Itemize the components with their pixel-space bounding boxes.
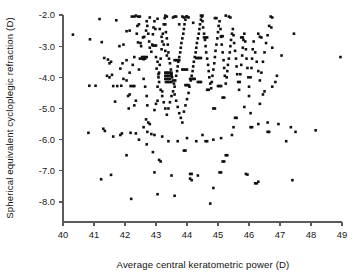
data-point bbox=[259, 79, 262, 82]
data-point bbox=[222, 59, 225, 62]
data-point bbox=[235, 57, 238, 60]
data-point bbox=[157, 76, 160, 79]
data-point bbox=[232, 34, 235, 37]
data-point bbox=[145, 143, 148, 146]
data-point bbox=[291, 179, 294, 182]
data-point bbox=[176, 140, 179, 143]
data-point bbox=[135, 99, 138, 102]
data-point bbox=[131, 15, 134, 18]
data-point bbox=[201, 14, 204, 17]
data-point bbox=[87, 132, 90, 135]
data-point bbox=[271, 16, 274, 19]
data-point bbox=[240, 64, 243, 67]
data-point bbox=[138, 68, 141, 71]
data-point bbox=[294, 131, 297, 134]
data-point bbox=[168, 57, 171, 60]
data-point bbox=[257, 70, 260, 73]
data-point bbox=[217, 31, 220, 34]
data-point bbox=[155, 44, 158, 47]
data-point bbox=[107, 58, 110, 61]
data-point bbox=[169, 78, 172, 81]
data-point bbox=[182, 32, 185, 35]
data-point bbox=[157, 73, 160, 76]
scatter-plot-figure: -2.0-3.0-4.0-5.0-6.0-7.0-8.0 40414243444… bbox=[0, 0, 355, 276]
data-point bbox=[112, 85, 115, 88]
data-point bbox=[235, 65, 238, 68]
data-point bbox=[125, 154, 128, 157]
data-point bbox=[285, 140, 288, 143]
data-point bbox=[238, 81, 241, 84]
data-point bbox=[186, 68, 189, 71]
data-point bbox=[293, 32, 296, 35]
data-point bbox=[243, 106, 246, 109]
data-point bbox=[201, 20, 204, 23]
data-point bbox=[94, 84, 97, 87]
data-point bbox=[242, 46, 245, 49]
data-point bbox=[127, 107, 130, 110]
data-point bbox=[158, 28, 161, 31]
data-point bbox=[211, 74, 214, 77]
data-point bbox=[118, 45, 121, 48]
data-point bbox=[184, 149, 187, 152]
y-tick-label: -4.0 bbox=[39, 72, 55, 83]
data-point bbox=[146, 131, 149, 134]
data-point bbox=[139, 42, 142, 45]
data-point bbox=[226, 70, 229, 73]
data-point bbox=[129, 132, 132, 135]
data-point bbox=[165, 31, 168, 34]
data-point bbox=[128, 71, 131, 74]
data-point bbox=[170, 95, 173, 98]
data-point bbox=[192, 21, 195, 24]
data-point bbox=[135, 32, 138, 35]
data-point bbox=[164, 50, 167, 53]
data-point bbox=[116, 85, 119, 88]
data-point bbox=[150, 133, 153, 136]
data-point bbox=[176, 106, 179, 109]
data-point bbox=[187, 16, 190, 19]
x-tick-label: 44 bbox=[182, 229, 192, 240]
data-point bbox=[218, 20, 221, 23]
data-point bbox=[242, 36, 245, 39]
data-point bbox=[193, 60, 196, 63]
data-point bbox=[172, 16, 175, 19]
data-point bbox=[207, 70, 210, 73]
data-point bbox=[156, 99, 159, 102]
data-point bbox=[198, 28, 201, 31]
data-point bbox=[133, 85, 136, 88]
data-point bbox=[212, 68, 215, 71]
data-points-layer bbox=[72, 14, 342, 205]
data-point bbox=[166, 54, 169, 57]
chart-canvas: -2.0-3.0-4.0-5.0-6.0-7.0-8.0 40414243444… bbox=[0, 0, 355, 276]
data-point bbox=[238, 89, 241, 92]
data-point bbox=[229, 16, 232, 19]
data-point bbox=[262, 60, 265, 63]
data-point bbox=[202, 26, 205, 29]
data-point bbox=[314, 129, 317, 132]
data-point bbox=[142, 78, 145, 81]
data-point bbox=[201, 134, 204, 137]
data-point bbox=[232, 126, 235, 129]
data-point bbox=[170, 71, 173, 74]
data-point bbox=[178, 23, 181, 26]
data-point bbox=[248, 85, 251, 88]
data-point bbox=[212, 187, 215, 190]
data-point bbox=[280, 54, 283, 57]
data-point bbox=[133, 56, 136, 59]
data-point bbox=[209, 202, 212, 205]
data-point bbox=[180, 117, 183, 120]
data-point bbox=[195, 46, 198, 49]
data-point bbox=[149, 46, 152, 49]
data-point bbox=[224, 82, 227, 85]
data-point bbox=[169, 62, 172, 65]
data-point bbox=[111, 74, 114, 77]
data-point bbox=[133, 104, 136, 107]
data-point bbox=[161, 95, 164, 98]
data-point bbox=[187, 84, 190, 87]
data-point bbox=[125, 30, 128, 33]
data-point bbox=[206, 140, 209, 143]
y-tick-label: -8.0 bbox=[39, 196, 55, 207]
data-point bbox=[214, 107, 217, 110]
data-point bbox=[89, 38, 92, 41]
data-point bbox=[110, 60, 113, 63]
data-point bbox=[147, 32, 150, 35]
